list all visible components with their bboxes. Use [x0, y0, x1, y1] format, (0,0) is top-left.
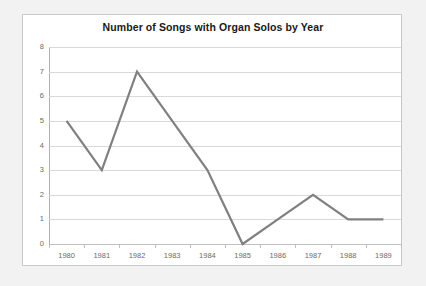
x-axis-tick [225, 244, 226, 248]
x-axis-tick [155, 244, 156, 248]
x-axis-tick [49, 244, 50, 248]
x-tick-label-1988: 1988 [340, 252, 357, 260]
x-tick-label-1989: 1989 [375, 252, 392, 260]
x-axis-tick [260, 244, 261, 248]
x-axis-tick [331, 244, 332, 248]
x-tick-label-1985: 1985 [234, 252, 251, 260]
y-tick-label-4: 4 [40, 142, 44, 150]
y-tick-label-2: 2 [40, 191, 44, 199]
x-tick-label-1987: 1987 [305, 252, 322, 260]
x-tick-label-1980: 1980 [58, 252, 75, 260]
y-tick-label-6: 6 [40, 93, 44, 101]
y-tick-label-0: 0 [40, 240, 44, 248]
y-tick-label-5: 5 [40, 117, 44, 125]
plot-area: 012345678 198019811982198319841985198619… [49, 47, 401, 244]
x-tick-label-1986: 1986 [269, 252, 286, 260]
series-polyline [67, 72, 384, 244]
x-tick-label-1983: 1983 [164, 252, 181, 260]
line-series [49, 47, 401, 244]
y-tick-label-1: 1 [40, 216, 44, 224]
y-tick-label-7: 7 [40, 68, 44, 76]
chart-title: Number of Songs with Organ Solos by Year [23, 21, 403, 33]
y-tick-label-8: 8 [40, 43, 44, 51]
x-axis-tick [295, 244, 296, 248]
x-axis-tick [84, 244, 85, 248]
x-tick-label-1981: 1981 [93, 252, 110, 260]
x-axis-tick [190, 244, 191, 248]
x-axis-tick [366, 244, 367, 248]
x-axis-tick [119, 244, 120, 248]
chart-container: Number of Songs with Organ Solos by Year… [22, 14, 402, 266]
screenshot-root: Number of Songs with Organ Solos by Year… [0, 0, 426, 286]
x-tick-label-1982: 1982 [129, 252, 146, 260]
x-axis-tick [401, 244, 402, 248]
y-tick-label-3: 3 [40, 166, 44, 174]
x-tick-label-1984: 1984 [199, 252, 216, 260]
